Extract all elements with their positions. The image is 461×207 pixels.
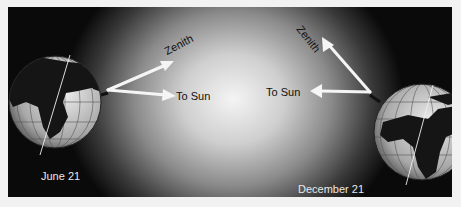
to-sun-label-december: To Sun xyxy=(266,86,300,98)
date-label-june: June 21 xyxy=(41,170,80,182)
to-sun-label-june: To Sun xyxy=(176,90,210,102)
globe-june xyxy=(8,55,108,155)
diagram-panel: Zenith To Sun June 21 Zenith To Sun Dece… xyxy=(8,7,452,197)
date-label-december: December 21 xyxy=(298,183,364,195)
diagram-graphics xyxy=(8,7,452,197)
globe-december xyxy=(370,84,452,185)
arrows-june xyxy=(108,61,176,101)
